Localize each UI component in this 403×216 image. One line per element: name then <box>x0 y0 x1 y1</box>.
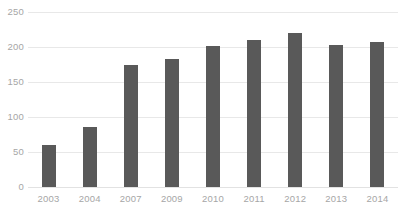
x-tick-label: 2010 <box>193 193 233 204</box>
bar-slot <box>316 12 357 187</box>
y-tick-label: 150 <box>0 77 24 87</box>
bar <box>370 42 384 187</box>
bar-slot <box>28 12 69 187</box>
gridline <box>28 187 398 188</box>
x-tick-label: 2004 <box>70 193 110 204</box>
y-tick-label: 250 <box>0 7 24 17</box>
bar-slot <box>69 12 110 187</box>
bar <box>288 33 302 187</box>
bar-slot <box>275 12 316 187</box>
bar <box>42 145 56 187</box>
y-tick-label: 50 <box>0 147 24 157</box>
x-tick-label: 2011 <box>234 193 274 204</box>
bar <box>206 46 220 187</box>
bar-slot <box>234 12 275 187</box>
bar-chart: 050100150200250 200320042007200920102011… <box>0 0 403 216</box>
y-tick-label: 100 <box>0 112 24 122</box>
bar-slot <box>192 12 233 187</box>
bar-slot <box>357 12 398 187</box>
bar <box>83 127 97 187</box>
x-tick-label: 2012 <box>275 193 315 204</box>
bar <box>124 65 138 187</box>
x-tick-label: 2009 <box>152 193 192 204</box>
plot-area <box>28 12 398 187</box>
y-tick-label: 0 <box>0 182 24 192</box>
bar-slot <box>151 12 192 187</box>
bars-layer <box>28 12 398 187</box>
x-tick-label: 2014 <box>357 193 397 204</box>
x-tick-label: 2007 <box>111 193 151 204</box>
bar <box>165 59 179 187</box>
y-tick-label: 200 <box>0 42 24 52</box>
x-tick-label: 2003 <box>29 193 69 204</box>
x-tick-label: 2013 <box>316 193 356 204</box>
bar <box>329 45 343 187</box>
bar <box>247 40 261 187</box>
bar-slot <box>110 12 151 187</box>
